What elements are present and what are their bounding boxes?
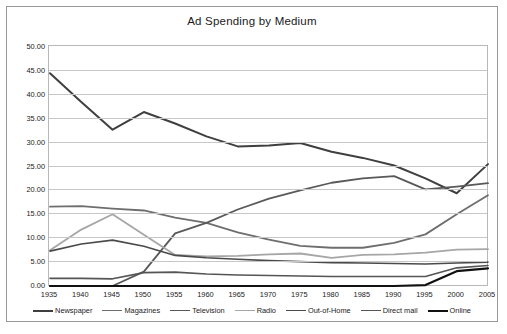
gridline-horizontal: [49, 118, 487, 119]
gridline-horizontal: [49, 213, 487, 214]
y-axis-labels: 0.005.0010.0015.0020.0025.0030.0035.0040…: [7, 45, 45, 286]
y-axis-tick-label: 10.00: [5, 233, 45, 242]
series-line: [50, 73, 488, 193]
legend-label: Radio: [257, 306, 276, 315]
legend-item[interactable]: Magazines: [102, 306, 160, 315]
y-axis-tick-label: 5.00: [5, 257, 45, 266]
y-axis-tick-label: 30.00: [5, 137, 45, 146]
gridline-horizontal: [49, 261, 487, 262]
x-axis-tick-label: 1940: [72, 290, 88, 299]
y-axis-tick-label: 35.00: [5, 113, 45, 122]
gridline-horizontal: [49, 189, 487, 190]
x-axis-tick-label: 2000: [447, 290, 463, 299]
legend-item[interactable]: Radio: [235, 306, 276, 315]
x-axis-tick-label: 1935: [41, 290, 57, 299]
x-axis-tick-label: 1955: [166, 290, 182, 299]
x-axis-tick-label: 1945: [103, 290, 119, 299]
x-axis-tick-label: 1990: [385, 290, 401, 299]
x-axis-tick-label: 1950: [135, 290, 151, 299]
x-axis-tick-label: 1980: [322, 290, 338, 299]
y-axis-tick-label: 45.00: [5, 65, 45, 74]
y-axis-tick-label: 15.00: [5, 209, 45, 218]
series-line: [50, 195, 488, 248]
legend-swatch-icon: [286, 310, 306, 311]
gridline-horizontal: [49, 142, 487, 143]
x-axis-tick-label: 1965: [228, 290, 244, 299]
legend-item[interactable]: Newspaper: [33, 306, 92, 315]
gridline-horizontal: [49, 94, 487, 95]
series-lines: [49, 46, 489, 287]
gridline-horizontal: [49, 237, 487, 238]
plot-area: [48, 45, 488, 286]
legend-label: Out-of-Home: [308, 306, 351, 315]
legend-label: Television: [192, 306, 224, 315]
legend-item[interactable]: Online: [428, 306, 471, 315]
legend-label: Magazines: [124, 306, 160, 315]
y-axis-tick-label: 0.00: [5, 281, 45, 290]
chart-legend: NewspaperMagazinesTelevisionRadioOut-of-…: [7, 306, 497, 315]
x-axis-tick-label: 1995: [416, 290, 432, 299]
legend-label: Newspaper: [55, 306, 92, 315]
legend-item[interactable]: Television: [170, 306, 224, 315]
gridline-horizontal: [49, 166, 487, 167]
x-axis-tick-label: 1985: [354, 290, 370, 299]
y-axis-tick-label: 20.00: [5, 185, 45, 194]
chart-title: Ad Spending by Medium: [7, 15, 497, 27]
legend-item[interactable]: Out-of-Home: [286, 306, 351, 315]
series-line: [50, 265, 488, 278]
x-axis-tick-label: 1970: [260, 290, 276, 299]
legend-swatch-icon: [428, 310, 448, 312]
chart-container: Ad Spending by Medium 0.005.0010.0015.00…: [6, 6, 498, 322]
x-axis-labels: 1935194019451950195519601965197019751980…: [48, 290, 488, 304]
series-line: [50, 176, 488, 286]
x-axis-tick-label: 1975: [291, 290, 307, 299]
legend-label: Direct mail: [383, 306, 418, 315]
x-axis-tick-label: 1960: [197, 290, 213, 299]
legend-swatch-icon: [33, 310, 53, 312]
y-axis-tick-label: 25.00: [5, 161, 45, 170]
y-axis-tick-label: 50.00: [5, 42, 45, 51]
legend-swatch-icon: [102, 310, 122, 311]
y-axis-tick-label: 40.00: [5, 89, 45, 98]
legend-swatch-icon: [170, 310, 190, 311]
gridline-horizontal: [49, 70, 487, 71]
legend-item[interactable]: Direct mail: [361, 306, 418, 315]
legend-label: Online: [450, 306, 471, 315]
legend-swatch-icon: [361, 310, 381, 311]
x-axis-tick-label: 2005: [479, 290, 495, 299]
legend-swatch-icon: [235, 310, 255, 311]
